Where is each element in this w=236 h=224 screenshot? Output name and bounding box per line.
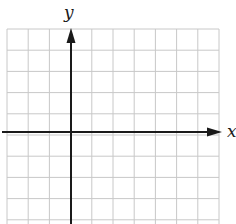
y-axis-label: y bbox=[64, 4, 74, 21]
y-axis-arrow-icon bbox=[67, 28, 76, 43]
grid-lines bbox=[7, 29, 219, 224]
coordinate-grid bbox=[0, 0, 236, 224]
coordinate-plane: y x bbox=[0, 0, 236, 224]
y-axis bbox=[67, 28, 76, 224]
x-axis-label: x bbox=[227, 123, 236, 140]
